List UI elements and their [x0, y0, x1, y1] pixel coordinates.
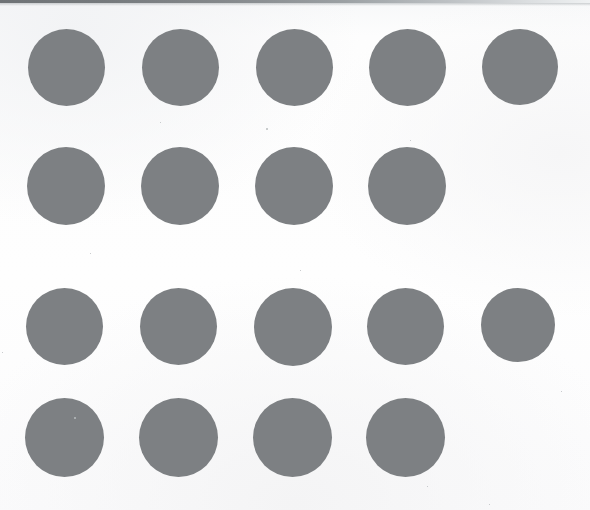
scan-speck: [300, 270, 301, 271]
dot-circle: [28, 29, 105, 106]
scan-speck: [160, 122, 161, 123]
dot-circle: [140, 288, 217, 365]
worksheet-page: [0, 0, 590, 510]
dot-circle: [139, 398, 218, 477]
row-2: [0, 147, 590, 227]
scan-edge-top: [0, 0, 590, 3]
dot-circle: [366, 398, 445, 477]
dot-circle: [481, 288, 555, 362]
scan-speck: [410, 140, 411, 141]
dot-circle: [253, 398, 332, 477]
scan-speck: [561, 391, 562, 392]
dot-circle: [256, 29, 333, 106]
row-1: [0, 29, 590, 109]
dot-circle: [369, 29, 446, 106]
dot-circle: [254, 288, 332, 366]
dot-circle: [141, 147, 219, 225]
scan-speck: [90, 253, 91, 254]
dot-circle: [255, 147, 333, 225]
dot-circle: [142, 29, 219, 106]
row-3: [0, 288, 590, 368]
row-4: [0, 398, 590, 478]
dot-circle: [482, 29, 558, 105]
dot-circle: [26, 288, 103, 365]
dot-circle: [368, 147, 446, 225]
dot-circle: [27, 147, 105, 225]
scan-speck: [266, 128, 268, 130]
scan-speck: [427, 486, 428, 487]
scan-speck: [489, 504, 490, 505]
dot-circle: [367, 288, 444, 365]
dot-circle: [25, 398, 104, 477]
scan-edge-top-shadow: [0, 3, 590, 6]
